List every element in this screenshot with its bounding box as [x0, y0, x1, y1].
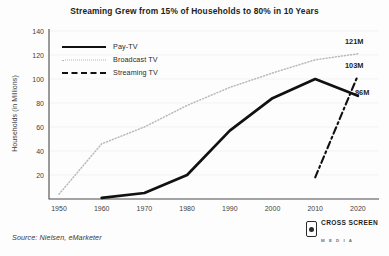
y-tick-120: 120: [32, 52, 44, 59]
series-line-streaming-tv: [315, 75, 358, 177]
y-tick-80: 80: [36, 100, 44, 107]
brand-name: CROSS SCREEN: [321, 219, 378, 226]
source-note: Source: Nielsen, eMarketer: [12, 233, 102, 242]
chart-title: Streaming Grew from 15% of Households to…: [0, 6, 389, 16]
legend-swatch-solid-line-icon: [62, 42, 106, 52]
x-tick-1980: 1980: [179, 205, 195, 212]
legend-item-streaming-tv: Streaming TV: [62, 66, 194, 79]
x-axis-tick-labels: 1950 1960 1970 1980 1990 2000 2010 2020: [51, 205, 366, 212]
legend-item-pay-tv: Pay-TV: [62, 40, 194, 53]
endpoint-annotations: 121M 103M 86M: [345, 37, 369, 97]
x-tick-1960: 1960: [94, 205, 110, 212]
legend-label-pay-tv: Pay-TV: [106, 42, 138, 51]
y-tick-60: 60: [36, 124, 44, 131]
x-tick-2000: 2000: [265, 205, 281, 212]
chart-card: Streaming Grew from 15% of Households to…: [0, 0, 389, 256]
legend-label-broadcast-tv: Broadcast TV: [106, 55, 158, 64]
chart-legend: Pay-TV Broadcast TV Streaming TV: [62, 40, 194, 79]
legend-swatch-dashdot-line-icon: [62, 68, 106, 78]
y-tick-20: 20: [36, 172, 44, 179]
x-tick-2010: 2010: [307, 205, 323, 212]
y-tick-140: 140: [32, 28, 44, 35]
legend-swatch-dotted-line-icon: [62, 55, 106, 65]
y-axis-title: Households (in Millions): [11, 44, 18, 184]
x-tick-2020: 2020: [350, 205, 366, 212]
y-axis-tick-labels: 140 120 100 80 60 40 20: [32, 28, 44, 179]
legend-item-broadcast-tv: Broadcast TV: [62, 53, 194, 66]
brand-text: CROSS SCREEN M E D I A: [321, 212, 378, 246]
brand-subtitle: M E D I A: [321, 238, 353, 243]
screen-device-icon: [306, 221, 317, 237]
legend-label-streaming-tv: Streaming TV: [106, 68, 158, 77]
x-tick-1950: 1950: [51, 205, 67, 212]
y-tick-40: 40: [36, 148, 44, 155]
chart-svg: 140 120 100 80 60 40 20 1950 1960 1970 1…: [0, 18, 389, 223]
y-tick-100: 100: [32, 76, 44, 83]
endpoint-label-streaming: 103M: [345, 61, 364, 70]
plot-area: Households (in Millions) 140 120 100 80 …: [0, 18, 389, 223]
brand-logo: CROSS SCREEN M E D I A: [306, 212, 378, 246]
x-tick-1970: 1970: [137, 205, 153, 212]
endpoint-label-paytv: 86M: [355, 88, 369, 97]
x-tick-1990: 1990: [222, 205, 238, 212]
series-line-pay-tv: [102, 79, 358, 198]
endpoint-label-broadcast: 121M: [345, 37, 364, 46]
